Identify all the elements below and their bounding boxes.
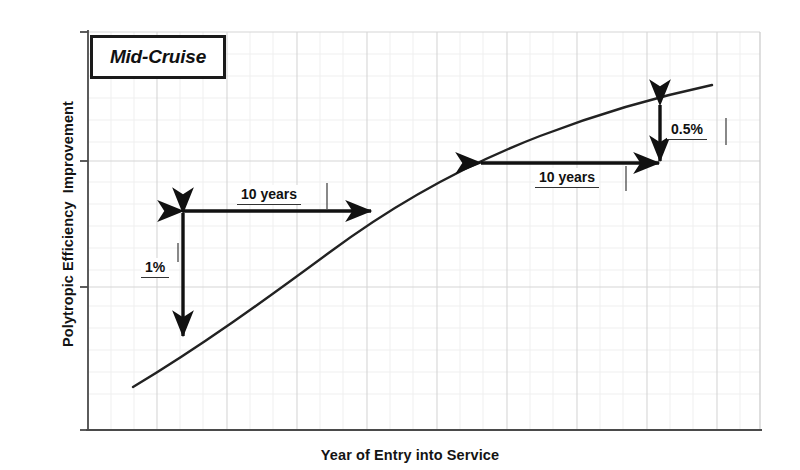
annotation-right-half-percent: 0.5% xyxy=(667,120,707,140)
annotation-right-ten-years: 10 years xyxy=(535,168,599,188)
chart-figure: Polytropic Efficiency Improvement xyxy=(0,0,800,470)
mid-cruise-callout: Mid-Cruise xyxy=(90,35,226,79)
annotation-left-ten-years: 10 years xyxy=(237,185,301,205)
x-axis-title: Year of Entry into Service xyxy=(180,447,640,463)
y-axis xyxy=(80,30,88,431)
annotation-left-one-percent: 1% xyxy=(141,258,169,278)
plot-background xyxy=(88,32,760,430)
mid-cruise-callout-label: Mid-Cruise xyxy=(110,46,206,68)
